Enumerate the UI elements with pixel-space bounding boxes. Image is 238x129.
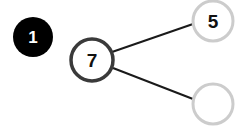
- child-node-1: 5: [193, 1, 233, 41]
- edge-root-to-child-2: [113, 68, 193, 99]
- edge-root-to-child-1: [112, 24, 193, 52]
- number-bond-diagram: 1 7 5: [0, 0, 238, 129]
- root-node: 7: [71, 39, 113, 81]
- step-badge: 1: [13, 17, 53, 57]
- root-node-value: 7: [87, 50, 98, 71]
- step-badge-label: 1: [28, 28, 37, 47]
- child-node-1-value: 5: [208, 11, 219, 32]
- child-node-2[interactable]: [193, 84, 233, 124]
